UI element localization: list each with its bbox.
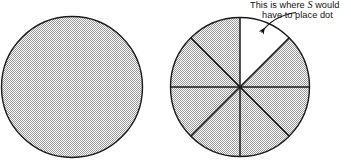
figure-container: This is where S would have to place dot (0, 0, 351, 167)
left-whole-circle (2, 17, 143, 158)
fraction-circles-diagram (0, 0, 351, 167)
annotation-text-prefix: This is where (250, 0, 307, 10)
annotation-text-suffix: would (313, 0, 340, 10)
left-circle-outline (2, 17, 143, 158)
right-eighths-circle (171, 17, 310, 156)
annotation-line-2: have to place dot (262, 10, 333, 21)
annotation-line-1: This is where S would (250, 0, 339, 11)
